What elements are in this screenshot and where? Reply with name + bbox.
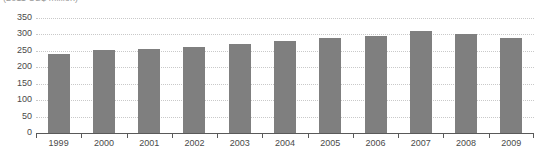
- bar-chart: (2011 US$ million) 050100150200250300350…: [0, 0, 540, 156]
- bar[interactable]: [48, 54, 70, 133]
- x-axis-tick-label: 2007: [398, 139, 443, 148]
- chart-subtitle: (2011 US$ million): [3, 0, 78, 3]
- bar[interactable]: [229, 44, 251, 133]
- x-axis-tick-label: 2006: [353, 139, 398, 148]
- x-axis-tick: [353, 133, 354, 138]
- x-axis-tick: [81, 133, 82, 138]
- x-axis-tick: [398, 133, 399, 138]
- y-axis-tick-label: 350: [0, 13, 32, 22]
- y-axis-tick-label: 150: [0, 79, 32, 88]
- x-axis-tick-label: 2009: [489, 139, 534, 148]
- x-axis-tick-label: 2005: [308, 139, 353, 148]
- bar-slot: [127, 18, 172, 133]
- x-axis-tick: [172, 133, 173, 138]
- bar-slot: [353, 18, 398, 133]
- x-axis-tick: [308, 133, 309, 138]
- bar[interactable]: [455, 34, 477, 133]
- bar-slot: [443, 18, 488, 133]
- x-axis: 1999200020012002200320042005200620072008…: [36, 133, 534, 156]
- x-axis-tick-label: 2001: [127, 139, 172, 148]
- bar[interactable]: [410, 31, 432, 133]
- x-axis-tick: [443, 133, 444, 138]
- bar[interactable]: [319, 38, 341, 133]
- y-axis-tick-label: 200: [0, 62, 32, 71]
- bar[interactable]: [93, 50, 115, 133]
- y-axis-tick-label: 300: [0, 29, 32, 38]
- x-axis-tick: [262, 133, 263, 138]
- x-axis-tick-label: 2003: [217, 139, 262, 148]
- x-axis-tick: [533, 133, 534, 138]
- y-axis-tick-label: 0: [0, 128, 32, 137]
- x-axis-tick: [217, 133, 218, 138]
- bar-slot: [262, 18, 307, 133]
- x-axis-tick-label: 1999: [36, 139, 81, 148]
- bar-slot: [308, 18, 353, 133]
- y-axis-tick-label: 50: [0, 112, 32, 121]
- bar[interactable]: [365, 36, 387, 133]
- x-axis-tick: [127, 133, 128, 138]
- x-axis-tick: [36, 133, 37, 138]
- bar[interactable]: [138, 49, 160, 133]
- bar[interactable]: [274, 41, 296, 133]
- x-axis-tick-label: 2000: [81, 139, 126, 148]
- bar-group: [36, 18, 534, 133]
- bar-slot: [36, 18, 81, 133]
- y-axis-tick-label: 250: [0, 46, 32, 55]
- x-axis-tick-label: 2002: [172, 139, 217, 148]
- bar-slot: [398, 18, 443, 133]
- bar[interactable]: [500, 38, 522, 133]
- bar-slot: [172, 18, 217, 133]
- x-axis-tick: [489, 133, 490, 138]
- bar-slot: [81, 18, 126, 133]
- x-axis-tick-label: 2008: [443, 139, 488, 148]
- x-axis-tick-label: 2004: [262, 139, 307, 148]
- bar-slot: [489, 18, 534, 133]
- bar-slot: [217, 18, 262, 133]
- bar[interactable]: [183, 47, 205, 133]
- plot-area: 050100150200250300350: [36, 18, 534, 133]
- y-axis-tick-label: 100: [0, 95, 32, 104]
